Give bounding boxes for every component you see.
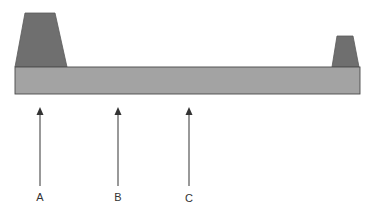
arrow-a <box>37 107 44 186</box>
base-bar <box>15 67 360 94</box>
diagram-canvas <box>0 0 370 218</box>
arrow-b <box>115 107 122 186</box>
arrow-c <box>186 107 193 186</box>
left-block <box>15 13 67 67</box>
label-c: C <box>185 192 193 204</box>
label-a: A <box>36 191 43 203</box>
label-b: B <box>114 191 121 203</box>
right-block <box>332 36 359 67</box>
